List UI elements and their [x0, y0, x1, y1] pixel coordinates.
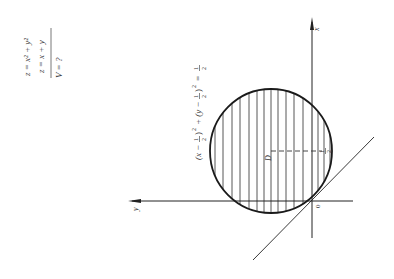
svg-text:): ) — [193, 132, 203, 135]
problem-statement: z = x² + y² z = x + y V = ? — [22, 28, 64, 78]
svg-text:=: = — [193, 76, 203, 81]
svg-text:1: 1 — [193, 95, 199, 98]
y-axis-label: y — [131, 207, 140, 212]
origin-label: 0 — [314, 204, 322, 208]
diagram-canvas: z = x² + y² z = x + y V = ? x y 0 D — [0, 0, 394, 279]
svg-text:1: 1 — [193, 67, 199, 70]
circle-equation: (x − 1 2 ) 2 + (y − 1 2 ) 2 = 1 2 — [191, 65, 207, 160]
x-axis-label: x — [312, 27, 321, 32]
svg-text:2: 2 — [201, 138, 207, 141]
svg-text:2: 2 — [191, 128, 197, 131]
svg-text:(x −: (x − — [193, 145, 203, 160]
y-axis-arrow-icon — [128, 199, 141, 203]
surface-plane-eq: z = x + y — [36, 40, 46, 74]
svg-text:2: 2 — [191, 85, 197, 88]
svg-text:2: 2 — [201, 95, 207, 98]
svg-text:2: 2 — [201, 67, 207, 70]
svg-text:2: 2 — [326, 150, 332, 153]
svg-text:): ) — [193, 89, 203, 92]
svg-text:+ (y −: + (y − — [193, 101, 203, 125]
surface-paraboloid-eq: z = x² + y² — [22, 38, 32, 77]
svg-text:1: 1 — [319, 150, 325, 153]
volume-question: V = ? — [54, 57, 64, 78]
region-label-d: D — [264, 155, 273, 162]
svg-text:1: 1 — [193, 138, 199, 141]
